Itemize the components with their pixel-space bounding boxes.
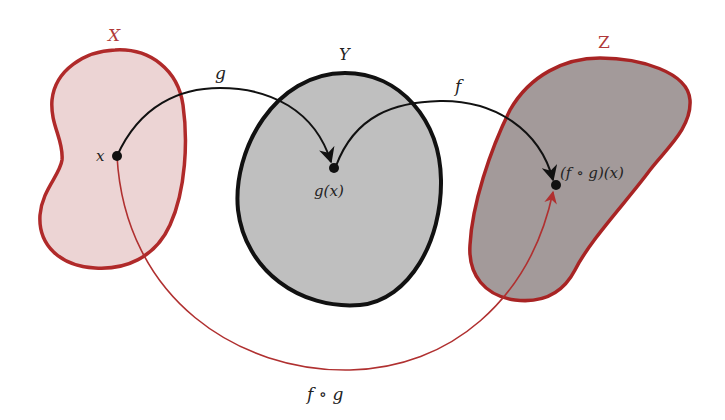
- point-fgx-label: (f ∘ g)(x): [560, 164, 624, 182]
- point-gx: [329, 163, 339, 173]
- point-gx-label: g(x): [314, 182, 344, 200]
- set-x-region: [40, 50, 186, 268]
- map-g-label: g: [215, 63, 226, 83]
- composition-diagram: X Y Z g f f ∘ g x g(x) (f ∘ g)(x): [0, 0, 725, 420]
- set-x-label: X: [106, 25, 121, 45]
- set-z-label: Z: [598, 32, 610, 52]
- set-y-label: Y: [339, 45, 351, 64]
- point-x: [112, 151, 122, 161]
- point-x-label: x: [96, 147, 105, 165]
- composite-map-label: f ∘ g: [305, 384, 343, 404]
- map-f-label: f: [453, 76, 464, 96]
